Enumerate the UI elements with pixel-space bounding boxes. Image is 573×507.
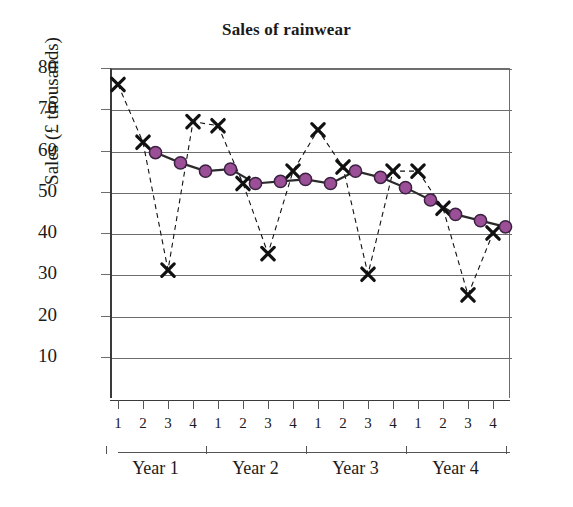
raw-marker-6	[237, 177, 249, 189]
quarter-tick-12	[393, 400, 394, 409]
chart-canvas: Sales of rainwear Sales (£ thousands) 80…	[0, 0, 573, 507]
y-tick-mark-50	[101, 192, 110, 193]
year-separator-end	[506, 446, 507, 454]
quarter-tick-7	[268, 400, 269, 409]
quarter-label-6: 2	[231, 415, 255, 432]
y-tick-mark-20	[101, 316, 110, 317]
trend-marker-4	[224, 163, 236, 175]
quarter-label-2: 2	[131, 415, 155, 432]
trend-marker-3	[199, 165, 211, 177]
quarter-label-12: 4	[381, 415, 405, 432]
trend-marker-7	[299, 173, 311, 185]
raw-marker-1	[112, 78, 124, 90]
raw-marker-7	[262, 247, 274, 259]
quarter-axis-line	[110, 400, 510, 401]
quarter-label-5: 1	[206, 415, 230, 432]
quarter-label-10: 2	[331, 415, 355, 432]
y-tick-label-80: 80	[0, 57, 57, 76]
raw-marker-12	[387, 165, 399, 177]
quarter-tick-2	[143, 400, 144, 409]
raw-marker-16	[487, 227, 499, 239]
y-tick-mark-30	[101, 274, 110, 275]
raw-marker-10	[337, 161, 349, 173]
quarter-tick-15	[468, 400, 469, 409]
quarter-label-1: 1	[106, 415, 130, 432]
year-label-3: Year 3	[306, 458, 406, 479]
trend-marker-1	[149, 146, 161, 158]
quarter-tick-3	[168, 400, 169, 409]
year-separator-4	[406, 446, 407, 454]
quarter-label-9: 1	[306, 415, 330, 432]
quarter-tick-14	[443, 400, 444, 409]
quarter-label-3: 3	[156, 415, 180, 432]
y-tick-label-40: 40	[0, 222, 57, 241]
raw-marker-5	[212, 120, 224, 132]
quarter-tick-10	[343, 400, 344, 409]
series-layer	[110, 68, 510, 398]
trend-marker-13	[449, 208, 461, 220]
quarter-label-7: 3	[256, 415, 280, 432]
trend-marker-2	[174, 157, 186, 169]
quarter-tick-13	[418, 400, 419, 409]
y-tick-mark-80	[101, 68, 110, 69]
year-label-2: Year 2	[206, 458, 306, 479]
y-tick-mark-10	[101, 357, 110, 358]
quarter-label-13: 1	[406, 415, 430, 432]
quarter-tick-8	[293, 400, 294, 409]
y-tick-mark-60	[101, 151, 110, 152]
trend-marker-14	[474, 215, 486, 227]
quarter-tick-6	[243, 400, 244, 409]
quarter-label-11: 3	[356, 415, 380, 432]
y-tick-label-60: 60	[0, 140, 57, 159]
raw-marker-9	[312, 124, 324, 136]
quarter-tick-4	[193, 400, 194, 409]
raw-marker-15	[462, 289, 474, 301]
quarter-label-4: 4	[181, 415, 205, 432]
trend-marker-12	[424, 194, 436, 206]
y-tick-label-30: 30	[0, 263, 57, 282]
raw-marker-8	[287, 165, 299, 177]
quarter-tick-16	[493, 400, 494, 409]
y-tick-label-50: 50	[0, 181, 57, 200]
raw-marker-14	[437, 202, 449, 214]
quarter-label-15: 3	[456, 415, 480, 432]
trend-marker-15	[499, 221, 511, 233]
quarter-tick-11	[368, 400, 369, 409]
trend-marker-6	[274, 175, 286, 187]
raw-marker-2	[137, 136, 149, 148]
trend-marker-9	[349, 165, 361, 177]
trend-marker-5	[249, 177, 261, 189]
trend-marker-11	[399, 182, 411, 194]
trend-marker-10	[374, 171, 386, 183]
quarter-tick-1	[118, 400, 119, 409]
year-separator-2	[206, 446, 207, 454]
y-tick-label-70: 70	[0, 98, 57, 117]
raw-marker-4	[187, 115, 199, 127]
y-tick-mark-70	[101, 109, 110, 110]
year-axis-line	[118, 452, 510, 453]
chart-title: Sales of rainwear	[0, 20, 573, 40]
quarter-tick-5	[218, 400, 219, 409]
quarter-tick-9	[318, 400, 319, 409]
quarter-label-8: 4	[281, 415, 305, 432]
y-axis-title: Sales (£ thousands)	[41, 0, 63, 251]
raw-marker-11	[362, 268, 374, 280]
y-tick-label-10: 10	[0, 346, 57, 365]
quarter-label-16: 4	[481, 415, 505, 432]
year-label-1: Year 1	[106, 458, 206, 479]
trend-marker-8	[324, 177, 336, 189]
year-separator-1	[106, 446, 107, 454]
year-separator-3	[306, 446, 307, 454]
quarter-label-14: 2	[431, 415, 455, 432]
year-label-4: Year 4	[406, 458, 506, 479]
raw-marker-3	[162, 264, 174, 276]
y-tick-mark-40	[101, 233, 110, 234]
y-tick-label-20: 20	[0, 305, 57, 324]
